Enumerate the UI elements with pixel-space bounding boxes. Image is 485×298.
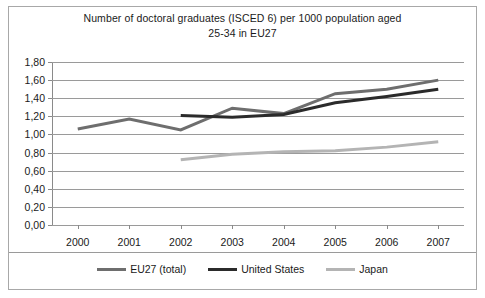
x-axis-tick-mark xyxy=(335,225,336,229)
y-axis-tick-label: 1,40 xyxy=(25,92,45,104)
legend-line-swatch-icon xyxy=(208,268,237,271)
series-line-japan xyxy=(181,142,439,160)
x-axis-tick-mark xyxy=(181,225,182,229)
chart-title: Number of doctoral graduates (ISCED 6) p… xyxy=(40,11,445,41)
x-axis-tick-label: 2005 xyxy=(324,236,347,248)
x-axis-tick-label: 2006 xyxy=(375,236,398,248)
chart-legend: EU27 (total)United StatesJapan xyxy=(9,258,476,280)
x-axis-tick-label: 2007 xyxy=(427,236,450,248)
legend-item[interactable]: Japan xyxy=(326,263,388,275)
legend-item-label: United States xyxy=(241,263,304,275)
series-lines-group xyxy=(52,62,464,225)
y-axis-tick-label: 0,00 xyxy=(25,219,45,231)
chart-figure: Number of doctoral graduates (ISCED 6) p… xyxy=(0,0,485,298)
x-axis-tick-mark xyxy=(78,225,79,229)
legend-item-label: Japan xyxy=(359,263,388,275)
series-line-eu27-total xyxy=(78,80,439,130)
x-axis-tick-label: 2000 xyxy=(66,236,89,248)
legend-item[interactable]: United States xyxy=(208,263,304,275)
x-axis-tick-mark xyxy=(387,225,388,229)
x-axis-tick-label: 2002 xyxy=(169,236,192,248)
y-axis-tick-label: 0,80 xyxy=(25,147,45,159)
y-axis-tick-label: 1,80 xyxy=(25,56,45,68)
chart-title-line-1: Number of doctoral graduates (ISCED 6) p… xyxy=(40,11,445,26)
x-axis-tick-label: 2004 xyxy=(272,236,295,248)
legend-line-swatch-icon xyxy=(97,268,126,271)
legend-separator xyxy=(9,252,476,253)
y-axis-tick-label: 1,60 xyxy=(25,74,45,86)
plot-area: 0,000,200,400,600,801,001,201,401,601,80… xyxy=(52,62,464,225)
x-axis-tick-mark xyxy=(129,225,130,229)
y-axis-tick-label: 0,20 xyxy=(25,201,45,213)
gridline xyxy=(52,225,464,226)
x-axis-tick-label: 2003 xyxy=(221,236,244,248)
y-axis-tick-mark xyxy=(48,225,52,226)
legend-item[interactable]: EU27 (total) xyxy=(97,263,186,275)
chart-title-line-2: 25-34 in EU27 xyxy=(40,26,445,41)
x-axis-tick-mark xyxy=(232,225,233,229)
x-axis-tick-mark xyxy=(284,225,285,229)
y-axis-tick-label: 0,40 xyxy=(25,183,45,195)
y-axis-tick-label: 0,60 xyxy=(25,165,45,177)
y-axis-tick-label: 1,00 xyxy=(25,128,45,140)
legend-line-swatch-icon xyxy=(326,268,355,271)
legend-item-label: EU27 (total) xyxy=(130,263,186,275)
x-axis-tick-label: 2001 xyxy=(118,236,141,248)
y-axis-tick-label: 1,20 xyxy=(25,110,45,122)
x-axis-tick-mark xyxy=(438,225,439,229)
